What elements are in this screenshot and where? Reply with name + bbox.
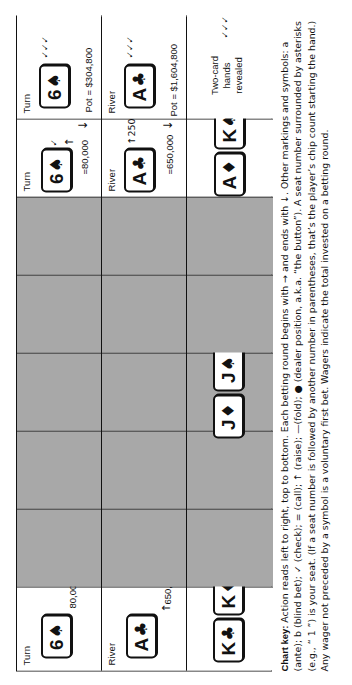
wager-turn-col6: =80,000 <box>79 139 90 174</box>
checks-river-col7: ✓✓✓ <box>126 35 135 58</box>
diamond-icon: ♦ <box>220 403 237 418</box>
card-rank: A <box>220 175 239 189</box>
club-icon: ♣ <box>131 155 148 170</box>
cell-revealed-col3[interactable]: J ♦ J ♠ <box>187 352 273 430</box>
cell-turn-col4[interactable] <box>17 274 101 352</box>
revealed-line-3: revealed <box>233 44 245 106</box>
cell-revealed-col0[interactable]: K ♣ K ♦ <box>187 586 273 670</box>
card-rank: K <box>219 594 238 608</box>
club-icon: ♣ <box>133 621 150 636</box>
chart-sheet: Turn 6 ♠ 80,000 Turn 6 ♠ ↑ ✓ =80, <box>16 15 338 671</box>
check-icon: ✓✓✓ <box>41 35 50 58</box>
card-a-clubs: A ♣ <box>124 148 155 192</box>
cell-river-col6[interactable]: River A ♣ ↑250,000 =650,000 ↓ <box>102 118 186 196</box>
screenshot-frame: Turn 6 ♠ 80,000 Turn 6 ♠ ↑ ✓ =80, <box>0 0 352 685</box>
cell-river-col3[interactable] <box>102 352 186 430</box>
hand-col6: A ♦ K ♠ <box>214 105 245 196</box>
revealed-line-1: Two-card <box>209 44 221 106</box>
cell-river-col5[interactable] <box>102 196 186 274</box>
revealed-line-2: hands <box>221 44 233 106</box>
cell-turn-col5[interactable] <box>17 196 101 274</box>
card-rank: J <box>219 419 238 430</box>
row-label-river: River <box>106 642 117 665</box>
pot-total-river: Pot = $1,604,800 <box>168 43 179 116</box>
checks-turn-col7: ✓✓✓ <box>41 35 50 58</box>
round-end-arrow-icon: ↓ <box>162 120 174 130</box>
card-rank: A <box>130 87 149 101</box>
club-icon: ♣ <box>220 625 237 640</box>
cell-turn-col2[interactable] <box>17 430 101 508</box>
card-rank: J <box>219 372 238 383</box>
check-icon: ✓ <box>50 138 59 146</box>
chart-key-title: Chart key: <box>279 625 290 671</box>
card-rank: 6 <box>47 173 66 184</box>
card-6-spades: 6 ♠ <box>41 148 72 192</box>
row-label-river-2: River <box>106 168 117 191</box>
card-6-spades: 6 ♠ <box>41 614 72 658</box>
club-icon: ♣ <box>131 71 148 86</box>
grid-row-revealed: K ♣ K ♦ J ♦ J <box>187 16 273 670</box>
diamond-icon: ♦ <box>221 159 238 174</box>
card-rank: A <box>130 171 149 185</box>
pot-total-turn: Pot = $304,800 <box>83 47 94 112</box>
cell-river-col7[interactable]: River A ♣ ✓✓✓ Pot = $1,604,800 <box>102 14 186 118</box>
cell-turn-col7[interactable]: Turn 6 ♠ ✓✓✓ Pot = $304,800 <box>17 14 101 118</box>
cell-revealed-col4[interactable] <box>187 274 273 352</box>
cell-turn-col1[interactable] <box>17 508 101 586</box>
cell-revealed-col6[interactable]: A ♦ K ♠ <box>187 118 273 196</box>
cell-river-col4[interactable] <box>102 274 186 352</box>
card-rank: K <box>219 641 238 655</box>
total-river-col6: =650,000 <box>164 134 175 174</box>
card-j-diamonds: J ♦ <box>213 394 244 438</box>
card-rank: 6 <box>47 639 66 650</box>
raise-arrow-icon: ↑ <box>64 137 75 146</box>
grid-row-river: River A ♣ ↑ 650,000 River A ♣ ↑250,000 <box>102 16 187 670</box>
card-a-clubs: A ♣ <box>124 64 155 108</box>
grid-row-turn: Turn 6 ♠ 80,000 Turn 6 ♠ ↑ ✓ =80, <box>17 16 102 670</box>
card-rank: K <box>220 128 239 142</box>
row-label-turn-3: Turn <box>21 93 32 113</box>
cell-revealed-col7[interactable]: Two-card hands revealed ✓✓✓ <box>187 14 273 118</box>
cell-revealed-col2[interactable] <box>187 430 273 508</box>
card-rank: A <box>132 637 151 651</box>
round-end-arrow-icon: ↓ <box>77 120 89 130</box>
cell-river-col2[interactable] <box>102 430 186 508</box>
cell-river-col0[interactable]: River A ♣ ↑ 650,000 <box>102 586 186 670</box>
spade-icon: ♠ <box>48 157 65 172</box>
card-rank: 6 <box>45 89 64 100</box>
chart-key-text: Chart key: Action reads left to right, t… <box>278 15 331 671</box>
row-label-turn-2: Turn <box>21 171 32 191</box>
row-label-turn: Turn <box>21 645 32 665</box>
row-label-river-3: River <box>106 90 117 113</box>
cell-revealed-col1[interactable] <box>187 508 273 586</box>
card-6-spades: 6 ♠ <box>39 64 70 108</box>
card-a-diamonds: A ♦ <box>214 152 245 196</box>
spade-icon: ♠ <box>48 623 65 638</box>
cell-turn-col0[interactable]: Turn 6 ♠ 80,000 <box>17 586 101 670</box>
spade-icon: ♠ <box>46 73 63 88</box>
rotated-page: Turn 6 ♠ 80,000 Turn 6 ♠ ↑ ✓ =80, <box>0 0 352 685</box>
check-icon: ✓✓✓ <box>126 35 135 58</box>
checks-revealed-col7: ✓✓✓ <box>221 15 230 38</box>
cell-revealed-col5[interactable] <box>187 196 273 274</box>
revealed-label: Two-card hands revealed <box>209 44 245 106</box>
spade-icon: ♠ <box>220 356 237 371</box>
cell-turn-col6[interactable]: Turn 6 ♠ ↑ ✓ =80,000 ↓ <box>17 118 101 196</box>
card-a-clubs: A ♣ <box>126 614 157 658</box>
cell-river-col1[interactable] <box>102 508 186 586</box>
hand-col3: J ♦ J ♠ <box>213 347 244 438</box>
chart-key-body: Action reads left to right, top to botto… <box>279 20 330 671</box>
card-k-clubs: K ♣ <box>213 618 244 662</box>
chart-key: Chart key: Action reads left to right, t… <box>278 15 336 671</box>
check-icon: ✓✓✓ <box>221 15 230 38</box>
action-grid: Turn 6 ♠ 80,000 Turn 6 ♠ ↑ ✓ =80, <box>16 15 272 671</box>
card-j-spades: J ♠ <box>213 347 244 391</box>
cell-turn-col3[interactable] <box>17 352 101 430</box>
